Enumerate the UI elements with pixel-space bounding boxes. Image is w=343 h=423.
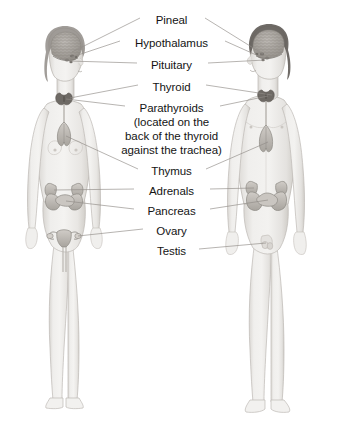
label-adrenals: Adrenals bbox=[0, 184, 343, 199]
labels-layer: Pineal Hypothalamus Pituitary Thyroid Pa… bbox=[0, 0, 343, 423]
label-thymus: Thymus bbox=[0, 164, 343, 179]
endocrine-system-diagram: Pineal Hypothalamus Pituitary Thyroid Pa… bbox=[0, 0, 343, 423]
label-pituitary: Pituitary bbox=[0, 58, 343, 73]
label-parathyroids-note-1: (located on the bbox=[0, 115, 343, 130]
label-parathyroids-note-2: back of the thyroid bbox=[0, 129, 343, 144]
label-parathyroids: Parathyroids bbox=[0, 101, 343, 116]
label-pineal: Pineal bbox=[0, 13, 343, 28]
label-thyroid: Thyroid bbox=[0, 80, 343, 95]
label-pancreas: Pancreas bbox=[0, 204, 343, 219]
label-hypothalamus: Hypothalamus bbox=[0, 36, 343, 51]
label-parathyroids-note-3: against the trachea) bbox=[0, 143, 343, 158]
label-testis: Testis bbox=[0, 244, 343, 259]
label-ovary: Ovary bbox=[0, 224, 343, 239]
